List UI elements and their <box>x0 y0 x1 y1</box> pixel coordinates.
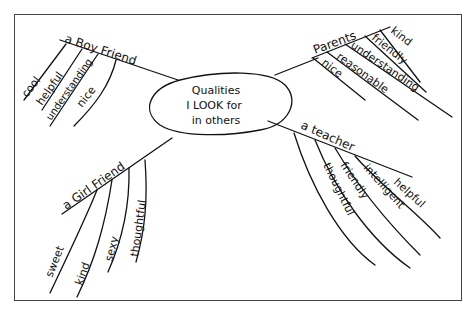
center-node: Qualities I LOOK for in others <box>150 73 292 135</box>
branch-label-boyfriend: a Boy Friend <box>63 32 138 68</box>
branch-teacher: a teacher helpful intelligent friendly t… <box>268 118 440 268</box>
center-line-3: in others <box>192 114 241 127</box>
center-line-2: I LOOK for <box>186 99 242 112</box>
branch-parents: Parents kind friendly understanding reas… <box>275 24 452 120</box>
quality-girlfriend-1: kind <box>73 261 93 287</box>
quality-boyfriend-3: nice <box>74 84 98 110</box>
quality-girlfriend-3: thoughtful <box>128 199 149 257</box>
quality-girlfriend-0: sweet <box>43 243 68 279</box>
branch-label-girlfriend: a Girl Friend <box>60 159 128 212</box>
branch-label-parents: Parents <box>311 28 358 56</box>
branch-girlfriend: a Girl Friend sweet kind sexy thoughtful <box>43 138 172 297</box>
branch-boyfriend: a Boy Friend cool helpful understanding … <box>19 32 178 126</box>
center-line-1: Qualities <box>192 84 241 97</box>
mind-map: Qualities I LOOK for in others a Boy Fri… <box>0 0 474 319</box>
quality-girlfriend-2: sexy <box>102 234 121 262</box>
